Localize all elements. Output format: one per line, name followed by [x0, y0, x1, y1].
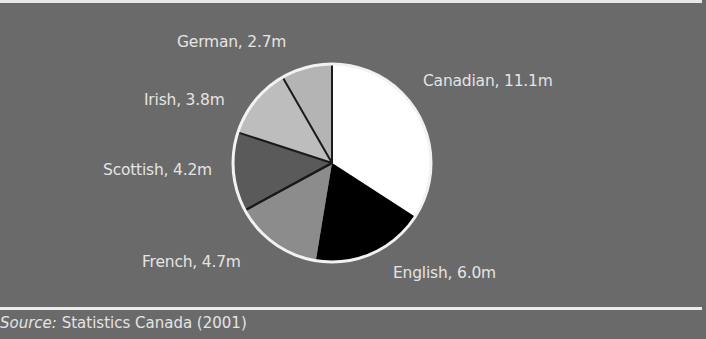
- source-note: Source: Statistics Canada (2001): [0, 314, 247, 332]
- label-german: German, 2.7m: [177, 33, 286, 51]
- source-text: Statistics Canada (2001): [57, 314, 247, 332]
- label-english: English, 6.0m: [393, 264, 496, 282]
- label-canadian: Canadian, 11.1m: [423, 72, 553, 90]
- bottom-rule: [0, 307, 702, 310]
- source-prefix: Source:: [0, 314, 57, 332]
- label-irish: Irish, 3.8m: [144, 91, 225, 109]
- label-scottish: Scottish, 4.2m: [103, 161, 212, 179]
- label-french: French, 4.7m: [142, 253, 241, 271]
